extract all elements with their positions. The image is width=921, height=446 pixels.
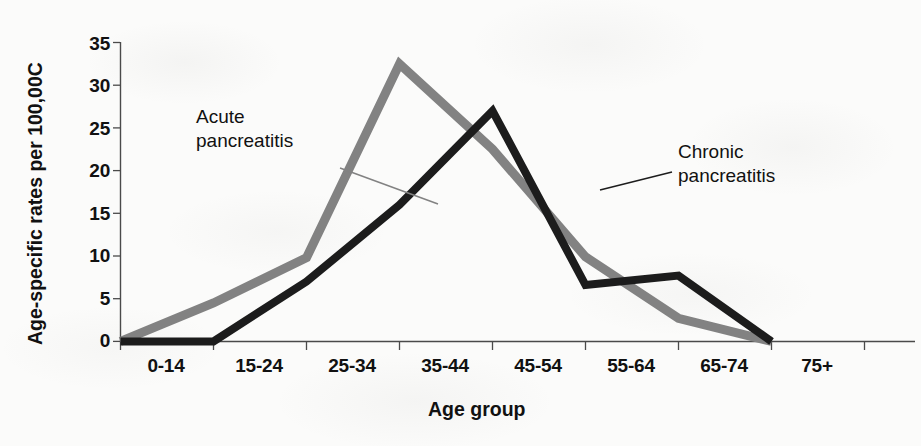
- chronic-annotation-leader-line: [600, 172, 672, 190]
- plot-area: [0, 0, 921, 446]
- y-tick-marks: [113, 43, 120, 342]
- x-tick-marks: [121, 342, 865, 351]
- series-line-chronic-pancreatitis: [121, 111, 772, 342]
- series-line-acute-pancreatitis: [121, 64, 772, 342]
- chart-figure: 35 30 25 20 15 10 5 0 Age-specific rates…: [0, 0, 921, 446]
